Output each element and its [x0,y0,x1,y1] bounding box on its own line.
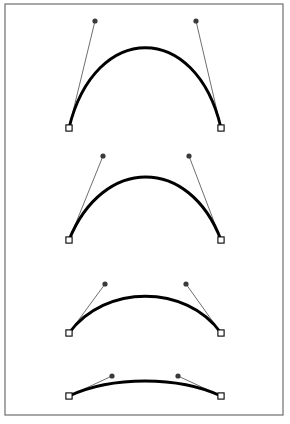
curve-3-start-anchor-point[interactable] [66,330,72,336]
curve-4-control-point-2-handle[interactable] [175,373,180,378]
curve-1-control-point-2-handle[interactable] [193,18,198,23]
figure-background [0,0,290,424]
bezier-figure [0,0,290,424]
curve-3-end-anchor-point[interactable] [218,330,224,336]
curve-2-start-anchor-point[interactable] [66,237,72,243]
curve-1-end-anchor-point[interactable] [218,125,224,131]
curve-2-control-point-2-handle[interactable] [186,153,191,158]
curve-4-end-anchor-point[interactable] [218,393,224,399]
curve-3-control-point-2-handle[interactable] [183,281,188,286]
curve-2-control-point-1-handle[interactable] [100,153,105,158]
curve-3-control-point-1-handle[interactable] [102,281,107,286]
curve-1-start-anchor-point[interactable] [66,125,72,131]
curve-2-end-anchor-point[interactable] [218,237,224,243]
figure-canvas [0,0,290,424]
curve-4-start-anchor-point[interactable] [66,393,72,399]
curve-1-control-point-1-handle[interactable] [92,18,97,23]
curve-4-control-point-1-handle[interactable] [109,373,114,378]
